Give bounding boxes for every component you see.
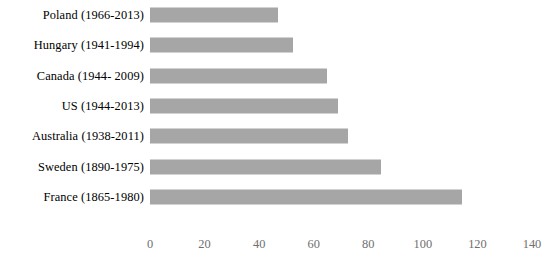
category-label: Australia (1938-2011) [0,130,144,142]
category-label: Canada (1944- 2009) [0,70,144,82]
bar-canada [150,68,327,83]
x-tick-label: 120 [468,238,487,250]
x-tick-label: 0 [147,238,153,250]
x-tick-label: 20 [198,238,210,250]
bar-sweden [150,159,381,174]
x-tick-label: 100 [414,238,433,250]
bar-row: Poland (1966-2013) [0,0,559,30]
bar-row: Hungary (1941-1994) [0,30,559,60]
bar-france [150,189,462,204]
bar-row: Australia (1938-2011) [0,121,559,151]
bar-row: Sweden (1890-1975) [0,151,559,181]
bar-track [150,159,532,174]
x-tick-label: 140 [523,238,542,250]
bar-track [150,68,532,83]
x-tick-label: 60 [308,238,320,250]
category-label: Hungary (1941-1994) [0,39,144,51]
bar-track [150,189,532,204]
chart-plot-rows: Poland (1966-2013) Hungary (1941-1994) C… [0,0,559,212]
bar-poland [150,8,278,23]
bar-us [150,99,338,114]
category-label: Poland (1966-2013) [0,9,144,21]
x-tick-label: 40 [253,238,265,250]
bar-row: Canada (1944- 2009) [0,61,559,91]
bar-hungary [150,38,293,53]
x-axis: 0 20 40 60 80 100 120 140 [150,238,532,258]
bar-track [150,99,532,114]
bar-track [150,129,532,144]
bar-chart: Poland (1966-2013) Hungary (1941-1994) C… [0,0,559,274]
category-label: Sweden (1890-1975) [0,160,144,172]
bar-australia [150,129,348,144]
category-label: US (1944-2013) [0,100,144,112]
category-label: France (1865-1980) [0,191,144,203]
bar-track [150,8,532,23]
bar-row: US (1944-2013) [0,91,559,121]
x-tick-label: 80 [362,238,374,250]
bar-row: France (1865-1980) [0,182,559,212]
bar-track [150,38,532,53]
